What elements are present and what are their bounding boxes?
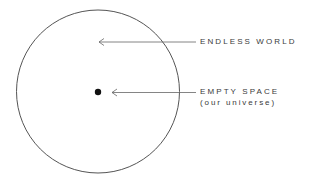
empty-space-arrow [112,89,196,96]
empty-space-label: EMPTY SPACE [200,87,279,97]
empty-space-dot [95,89,101,95]
endless-world-label: ENDLESS WORLD [200,37,297,47]
endless-world-arrow [99,39,196,46]
our-universe-sublabel: (our universe) [200,98,276,108]
